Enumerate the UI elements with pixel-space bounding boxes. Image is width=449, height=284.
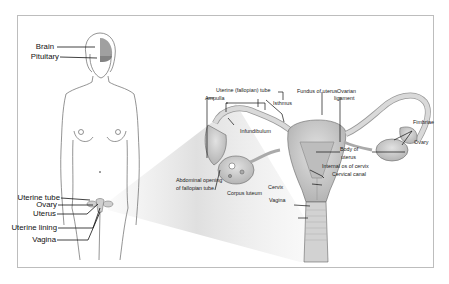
label-body-of-uterus-1: Body of: [340, 147, 358, 152]
pituitary-region: [100, 56, 112, 62]
label-ovarian-ligament-2: ligament: [334, 96, 354, 101]
label-abdominal-opening-2: of fallopian tube: [176, 186, 214, 191]
label-uterine-fallopian-tube: Uterine (fallopian) tube: [216, 88, 271, 93]
label-ovary: Ovary: [18, 201, 57, 209]
label-isthmus: Isthmus: [273, 101, 292, 106]
label-corpus-luteum: Corpus luteum: [227, 191, 262, 196]
label-uterine-lining: Uterine lining: [4, 224, 57, 232]
label-abdominal-opening-1: Abdominal opening: [176, 178, 222, 183]
label-ovarian-ligament-1: Ovarian: [337, 89, 356, 94]
label-internal-os-of-cervix: Internal os of cervix: [322, 164, 369, 169]
label-body-of-uterus-2: uterus: [341, 155, 356, 160]
body-leader-lines: [57, 47, 100, 240]
brain-region: [100, 38, 112, 56]
label-pituitary: Pituitary: [22, 53, 59, 61]
anatomy-illustration: [0, 0, 449, 284]
label-ampulla: Ampulla: [205, 96, 224, 101]
label-vagina: Vagina: [18, 236, 56, 244]
label-uterus: Uterus: [18, 210, 56, 218]
label-brain: Brain: [22, 43, 54, 51]
label-ovary-detail: Ovary: [414, 140, 428, 145]
label-fimbriae: Fimbriae: [413, 120, 434, 125]
label-cervical-canal: Cervical canal: [332, 172, 366, 177]
label-cervix: Cervix: [268, 185, 283, 190]
label-vagina-detail: Vagina: [269, 198, 285, 203]
female-body-outline: [61, 33, 140, 260]
label-infundibulum: Infundibulum: [240, 129, 271, 134]
label-fundus-of-uterus: Fundus of uterus: [297, 89, 337, 94]
